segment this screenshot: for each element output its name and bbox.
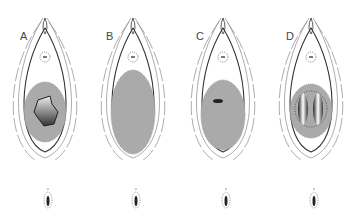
- ovary-outline-icon: [266, 0, 356, 210]
- panel-d: D: [266, 0, 356, 210]
- ovary-outline-icon: [178, 0, 268, 210]
- panel-c: C: [178, 0, 268, 210]
- ovary-outline-icon: [88, 0, 178, 210]
- panel-a: A: [0, 0, 90, 210]
- panel-b: B: [88, 0, 178, 210]
- ovary-outline-icon: [0, 0, 90, 210]
